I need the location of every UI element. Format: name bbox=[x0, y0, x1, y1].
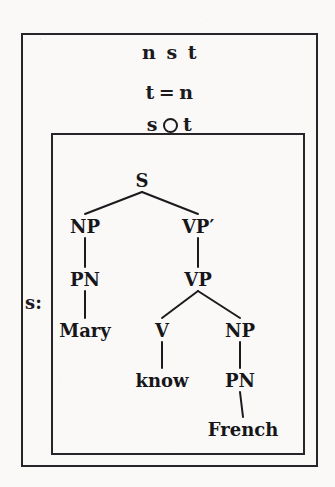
tree-node-np1: NP bbox=[70, 218, 100, 236]
tree-node-pn2: PN bbox=[225, 372, 255, 390]
tree-edge-pn2-to-french bbox=[240, 392, 243, 417]
tree-edge-s-to-vpbar bbox=[142, 192, 198, 214]
tree-edge-s-to-np1 bbox=[85, 192, 142, 214]
tree-edge-vp-to-v bbox=[162, 291, 198, 318]
tree-edge-vp-to-np2 bbox=[198, 291, 240, 318]
tree-edge-layer bbox=[0, 0, 335, 487]
tree-node-np2: NP bbox=[225, 322, 255, 340]
tree-node-vpbar: VP′ bbox=[182, 218, 214, 236]
syntax-tree: SNPVP′PNVPMaryVNPknowPNFrench bbox=[0, 0, 335, 487]
tree-node-mary: Mary bbox=[59, 322, 111, 340]
tree-node-s: S bbox=[136, 172, 149, 190]
tree-node-v: V bbox=[155, 322, 169, 340]
tree-node-know: know bbox=[135, 372, 188, 390]
tree-node-pn1: PN bbox=[70, 271, 100, 289]
tree-node-french: French bbox=[208, 421, 279, 439]
tree-node-vp: VP bbox=[184, 271, 212, 289]
